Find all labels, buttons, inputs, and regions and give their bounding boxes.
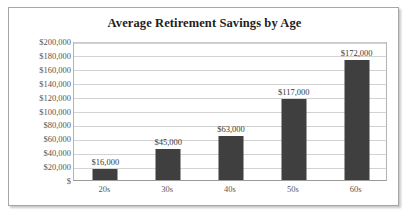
y-axis-tick-label: $20,000 (11, 162, 71, 172)
y-axis-tick-label: $140,000 (11, 79, 71, 89)
bar[interactable] (344, 60, 369, 180)
x-axis-tick-label: 40s (199, 184, 262, 194)
bar-value-label: $45,000 (154, 137, 182, 147)
bar[interactable] (93, 169, 118, 180)
bar-slot: $172,000 (325, 43, 388, 180)
y-axis-tick-label: $160,000 (11, 65, 71, 75)
x-axis-tick-label: 30s (136, 184, 199, 194)
y-axis-tick-label: $ (11, 176, 71, 186)
bar-value-label: $117,000 (278, 87, 310, 97)
chart-title: Average Retirement Savings by Age (9, 16, 400, 31)
y-axis-tick-label: $100,000 (11, 107, 71, 117)
x-axis: 20s30s40s50s60s (73, 184, 387, 200)
bar-value-label: $16,000 (92, 157, 120, 167)
y-axis: $$20,000$40,000$60,000$80,000$100,000$12… (9, 42, 71, 181)
bar[interactable] (156, 149, 181, 180)
y-axis-tick-label: $80,000 (11, 120, 71, 130)
bar[interactable] (218, 136, 243, 180)
plot-area: $16,000$45,000$63,000$117,000$172,000 (73, 42, 387, 181)
bar-value-label: $63,000 (217, 124, 245, 134)
x-axis-tick-label: 60s (324, 184, 387, 194)
bar-slot: $16,000 (74, 43, 137, 180)
x-axis-tick-label: 20s (73, 184, 136, 194)
y-axis-tick-label: $40,000 (11, 148, 71, 158)
y-axis-tick-label: $120,000 (11, 93, 71, 103)
bar[interactable] (281, 99, 306, 180)
bar-slot: $63,000 (200, 43, 263, 180)
x-axis-tick-label: 50s (261, 184, 324, 194)
chart-container: Average Retirement Savings by Age $$20,0… (8, 7, 399, 206)
bar-value-label: $172,000 (341, 48, 373, 58)
y-axis-tick-label: $200,000 (11, 37, 71, 47)
bar-slot: $117,000 (262, 43, 325, 180)
y-axis-tick-label: $60,000 (11, 134, 71, 144)
y-axis-tick-label: $180,000 (11, 51, 71, 61)
bar-slot: $45,000 (137, 43, 200, 180)
